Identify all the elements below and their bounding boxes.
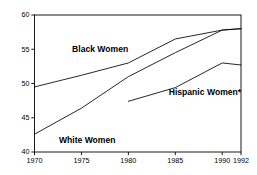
x-tick-label: 1985 xyxy=(167,156,183,165)
x-tick-label: 1990 xyxy=(214,156,230,165)
series-label: Hispanic Women* xyxy=(169,87,242,97)
x-tick-label: 1975 xyxy=(73,156,89,165)
x-tick-label: 1970 xyxy=(27,156,43,165)
series-label: White Women xyxy=(59,135,116,145)
y-tick-label: 50 xyxy=(22,79,30,88)
y-tick-label: 60 xyxy=(22,10,30,19)
series-label: Black Women xyxy=(72,44,128,54)
chart-figure: 4045505560 197019751980198519901992 Blac… xyxy=(0,0,257,175)
x-tick-label: 1980 xyxy=(120,156,136,165)
y-tick-label: 45 xyxy=(22,113,30,122)
y-tick-label: 55 xyxy=(22,45,30,54)
line-chart: 4045505560 197019751980198519901992 Blac… xyxy=(0,0,257,175)
x-tick-label: 1992 xyxy=(233,156,249,165)
